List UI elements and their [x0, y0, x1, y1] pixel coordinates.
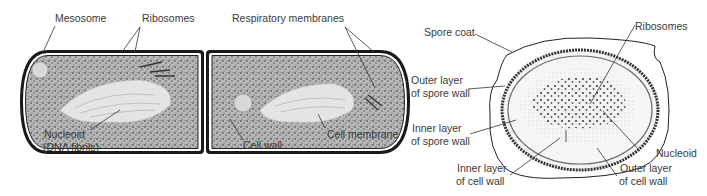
label-nucleoid-right: Nucleoid — [656, 147, 697, 159]
diagram-stage: Mesosome Ribosomes Respiratory membranes… — [0, 0, 707, 196]
label-ribosomes-left: Ribosomes — [142, 12, 195, 24]
diagram-drawing — [0, 0, 707, 196]
label-nucleoid-left-line2: (DNA fibrils) — [43, 141, 99, 153]
label-outer-spore-wall-line2: of spore wall — [411, 87, 470, 99]
label-spore-coat: Spore coat — [424, 26, 475, 38]
label-inner-spore-wall-line1: Inner layer — [412, 122, 462, 134]
label-ribosomes-right: Ribosomes — [635, 20, 688, 32]
label-outer-cell-wall-line2: of cell wall — [619, 175, 667, 187]
label-outer-cell-wall-line1: Outer layer — [620, 162, 672, 174]
label-cell-membrane: Cell membrane — [327, 128, 398, 140]
label-outer-spore-wall-line1: Outer layer — [411, 74, 463, 86]
label-inner-spore-wall-line2: of spore wall — [411, 135, 470, 147]
label-nucleoid-left-line1: Nucleoid — [44, 128, 85, 140]
label-mesosome: Mesosome — [55, 12, 106, 24]
endospore — [490, 38, 669, 178]
label-cell-wall: Cell wall — [243, 139, 282, 151]
label-respiratory-membranes: Respiratory membranes — [232, 12, 344, 24]
label-inner-cell-wall-line2: of cell wall — [456, 175, 504, 187]
label-inner-cell-wall-line1: Inner layer — [457, 162, 507, 174]
